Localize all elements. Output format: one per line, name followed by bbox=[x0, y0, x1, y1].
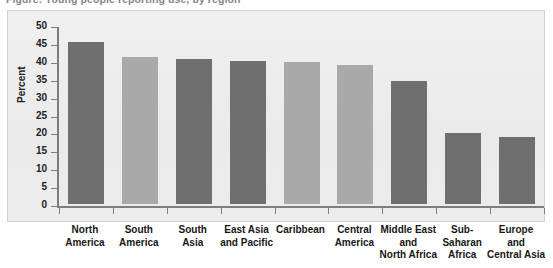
bar bbox=[445, 133, 481, 204]
x-axis-label-line: America bbox=[119, 237, 158, 248]
x-axis-tick bbox=[544, 208, 545, 214]
bar bbox=[122, 57, 158, 204]
x-axis-label-line: Middle East bbox=[380, 224, 436, 235]
bar-fill bbox=[391, 81, 427, 204]
x-axis-label-line: North bbox=[72, 224, 99, 235]
bars-layer bbox=[8, 11, 544, 221]
x-axis-label-line: South bbox=[179, 224, 207, 235]
bar bbox=[284, 62, 320, 204]
bar bbox=[499, 137, 535, 204]
x-axis-label-line: and bbox=[507, 237, 525, 248]
bar bbox=[68, 42, 104, 204]
x-axis-label-line: East Asia bbox=[224, 224, 269, 235]
bar bbox=[230, 61, 266, 204]
x-axis-label-line: and bbox=[399, 237, 417, 248]
bar-fill bbox=[337, 65, 373, 204]
x-axis-label-line: Africa bbox=[448, 249, 476, 260]
figure-title: Figure: Young people reporting use, by r… bbox=[6, 0, 526, 5]
bar-fill bbox=[230, 61, 266, 204]
x-axis-label-line: Central Asia bbox=[487, 249, 545, 260]
bar bbox=[176, 59, 212, 204]
bar-fill bbox=[284, 62, 320, 204]
x-axis-label-line: Saharan bbox=[442, 237, 481, 248]
x-axis-label-line: Central bbox=[337, 224, 371, 235]
bar bbox=[391, 81, 427, 204]
bar-fill bbox=[499, 137, 535, 204]
x-axis-label-line: America bbox=[335, 237, 374, 248]
x-axis-label-line: Europe bbox=[499, 224, 533, 235]
x-axis-category-labels: NorthAmericaSouthAmericaSouthAsiaEast As… bbox=[7, 224, 545, 266]
bar-fill bbox=[176, 59, 212, 204]
chart-screenshot: Figure: Young people reporting use, by r… bbox=[0, 0, 553, 268]
x-axis-label-line: and Pacific bbox=[220, 237, 273, 248]
x-axis-label-line: South bbox=[125, 224, 153, 235]
x-axis-label-line: Caribbean bbox=[276, 224, 325, 235]
bar bbox=[337, 65, 373, 204]
x-axis-label-line: America bbox=[65, 237, 104, 248]
figure-panel: Percent 50454035302520151050 bbox=[7, 10, 545, 222]
bar-fill bbox=[68, 42, 104, 204]
bar-fill bbox=[122, 57, 158, 204]
x-axis-label-line: Asia bbox=[182, 237, 203, 248]
x-axis-category-label: EuropeandCentral Asia bbox=[483, 224, 549, 262]
bar-fill bbox=[445, 133, 481, 204]
x-axis-label-line: Sub- bbox=[451, 224, 473, 235]
